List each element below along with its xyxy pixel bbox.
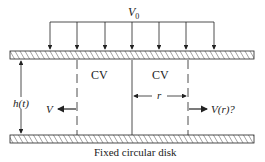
diagram-canvas: [0, 0, 265, 162]
top-plate: [10, 51, 254, 59]
v0-label: V0: [128, 6, 139, 21]
velocity-left-label: V: [46, 104, 53, 115]
caption: Fixed circular disk: [94, 147, 176, 158]
cv-left-label: CV: [91, 69, 108, 81]
velocity-right-label: V(r)?: [211, 104, 235, 115]
fixed-disk: [10, 135, 254, 143]
cv-right-label: CV: [152, 69, 169, 81]
v0-arrows: [50, 22, 214, 49]
radius-label: r: [157, 90, 161, 101]
height-label: h(t): [13, 98, 29, 109]
